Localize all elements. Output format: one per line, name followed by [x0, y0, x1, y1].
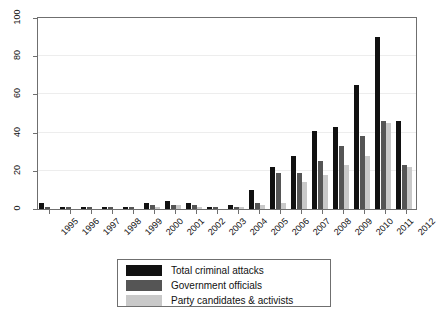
x-tick-mark [322, 210, 323, 214]
bar [255, 203, 260, 209]
x-tick-mark [196, 210, 197, 214]
bar [176, 205, 181, 209]
bar [276, 173, 281, 209]
bar [144, 203, 149, 209]
x-tick-mark [238, 210, 239, 214]
bar [197, 207, 202, 209]
legend-item: Party candidates & activists [118, 293, 330, 307]
bar [87, 207, 92, 209]
bar [281, 203, 286, 209]
bar [360, 136, 365, 209]
x-tick-mark [301, 210, 302, 214]
legend-item: Total criminal attacks [118, 263, 330, 277]
bar [81, 207, 86, 209]
bar [249, 190, 254, 209]
bar [365, 156, 370, 209]
y-tick-mark [33, 171, 37, 172]
bar [291, 156, 296, 209]
bar [260, 205, 265, 209]
x-tick-mark [70, 210, 71, 214]
x-tick-mark [175, 210, 176, 214]
bar-group [59, 18, 80, 209]
y-tick-mark [33, 94, 37, 95]
chart-legend: Total criminal attacksGovernment officia… [117, 259, 331, 307]
legend-label: Party candidates & activists [171, 295, 293, 306]
bar-group [185, 18, 206, 209]
legend-label: Government officials [171, 280, 262, 291]
bar [354, 85, 359, 209]
bar [165, 201, 170, 209]
bar-group [374, 18, 395, 209]
bar [333, 127, 338, 209]
bar [396, 121, 401, 209]
x-tick-mark [343, 210, 344, 214]
bar [312, 131, 317, 209]
bar [213, 207, 218, 209]
bar [108, 207, 113, 209]
bar [386, 123, 391, 209]
bar [234, 207, 239, 209]
bar-group [269, 18, 290, 209]
x-tick-mark [49, 210, 50, 214]
x-tick-mark [133, 210, 134, 214]
bar-group [332, 18, 353, 209]
bar [381, 121, 386, 209]
bar-group [143, 18, 164, 209]
legend-swatch [126, 295, 162, 306]
bar-group [227, 18, 248, 209]
bar [339, 146, 344, 209]
bar [192, 205, 197, 209]
bar [207, 207, 212, 209]
x-tick-mark [259, 210, 260, 214]
bar [270, 167, 275, 209]
x-tick-mark [280, 210, 281, 214]
y-tick-mark [33, 56, 37, 57]
bar [186, 203, 191, 209]
bar [302, 182, 307, 209]
bar [407, 167, 412, 209]
bar-group [122, 18, 143, 209]
x-tick-mark [385, 210, 386, 214]
bar-group [353, 18, 374, 209]
x-tick-mark [406, 210, 407, 214]
bar [375, 37, 380, 209]
bar [102, 207, 107, 209]
y-tick-label: 80 [12, 44, 22, 66]
bar [344, 165, 349, 209]
bar [66, 207, 71, 209]
y-tick-mark [33, 18, 37, 19]
legend-swatch [126, 265, 162, 276]
y-tick-mark [33, 209, 37, 210]
bar [129, 207, 134, 209]
bar [39, 203, 44, 209]
x-tick-mark [112, 210, 113, 214]
bar-group [80, 18, 101, 209]
bar-group [395, 18, 416, 209]
legend-swatch [126, 280, 162, 291]
bar [297, 173, 302, 209]
x-tick-mark [364, 210, 365, 214]
y-tick-label: 40 [12, 121, 22, 143]
bar-group [311, 18, 332, 209]
bar [155, 207, 160, 209]
x-tick-mark [154, 210, 155, 214]
bar [45, 207, 50, 209]
legend-item: Government officials [118, 278, 330, 292]
bar [323, 175, 328, 209]
bar [318, 161, 323, 209]
bar-group [206, 18, 227, 209]
bar [60, 207, 65, 209]
x-tick-mark [91, 210, 92, 214]
bar [402, 165, 407, 209]
bar-group [38, 18, 59, 209]
y-tick-label: 20 [12, 159, 22, 181]
bar-group [248, 18, 269, 209]
bar [171, 205, 176, 209]
bars-layer [38, 18, 416, 209]
bar [150, 205, 155, 209]
bar-group [164, 18, 185, 209]
bar [228, 205, 233, 209]
y-tick-label: 0 [12, 197, 22, 219]
x-tick-mark [217, 210, 218, 214]
